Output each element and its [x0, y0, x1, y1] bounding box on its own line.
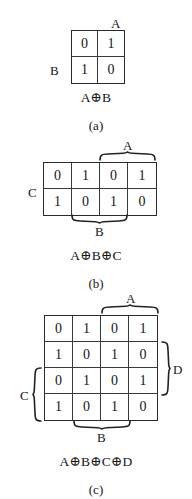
kmap-cell: 1	[101, 342, 129, 368]
figure-c-top-brace-label: A	[126, 292, 135, 305]
figure-c-top-brace	[101, 305, 159, 314]
figure-c-left-brace	[33, 367, 42, 422]
kmap-cell: 0	[45, 368, 73, 394]
kmap-cell: 1	[45, 342, 73, 368]
figure-c-right-brace	[161, 341, 170, 396]
figure-c-left-brace-label: C	[20, 389, 29, 402]
figure-c-expression: A⊕B⊕C⊕D	[0, 455, 192, 469]
kmap-cell: 0	[73, 394, 101, 420]
kmap-cell: 0	[101, 368, 129, 394]
kmap-cell: 1	[45, 394, 73, 420]
kmap-cell: 1	[129, 316, 157, 342]
kmap-cell: 1	[73, 316, 101, 342]
figure-c-kmap: 0 1 0 1 1 0 1 0 0 1 0 1 1 0 1 0	[44, 315, 158, 421]
kmap-cell: 0	[129, 394, 157, 420]
kmap-cell: 0	[45, 316, 73, 342]
kmap-cell: 0	[101, 316, 129, 342]
figure-c-caption: (c)	[0, 483, 192, 496]
kmap-cell: 1	[129, 368, 157, 394]
figure-c-right-brace-label: D	[173, 363, 182, 376]
kmap-cell: 0	[73, 342, 101, 368]
figure-c: A C 0 1 0 1 1 0 1 0 0 1 0 1 1 0 1 0 D B …	[0, 0, 192, 499]
kmap-cell: 0	[129, 342, 157, 368]
kmap-cell: 1	[73, 368, 101, 394]
figure-c-bottom-brace	[73, 421, 131, 430]
kmap-cell: 1	[101, 394, 129, 420]
figure-c-bottom-brace-label: B	[97, 431, 106, 444]
